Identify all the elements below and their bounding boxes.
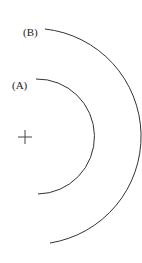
label-b: (B) <box>23 27 38 38</box>
center-cross-icon <box>18 130 32 144</box>
arc-b <box>45 29 141 243</box>
label-a: (A) <box>12 80 27 91</box>
diagram-canvas <box>0 0 142 263</box>
arc-a <box>36 79 94 194</box>
